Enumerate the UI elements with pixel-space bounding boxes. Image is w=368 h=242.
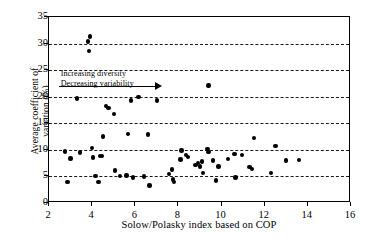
data-point [93,174,97,178]
gridline-y-10 [49,150,349,151]
x-tick-mark-4 [91,202,92,206]
x-tick-mark-16 [350,202,351,206]
data-point [269,171,273,175]
x-axis-title: Solow/Polasky index based on COP [48,219,350,230]
data-point [113,168,117,172]
x-tick-mark-14 [307,202,308,206]
data-point [216,164,220,168]
y-tick-mark-0 [44,202,48,203]
x-tick-mark-8 [177,202,178,206]
data-point [101,134,105,138]
data-point [87,49,91,53]
data-point [252,136,256,140]
data-point [240,153,244,157]
x-tick-mark-2 [48,202,49,206]
data-point [100,154,104,158]
data-point [129,98,133,102]
data-point [198,164,202,168]
data-point [86,39,90,43]
data-point [214,178,218,182]
arrow-shaft [59,86,157,87]
data-point [172,180,176,184]
data-point [63,149,67,153]
data-point [206,150,210,154]
y-tick-mark-20 [44,96,48,97]
data-point [147,183,151,187]
data-point [155,98,159,102]
data-point [68,156,72,160]
data-point [201,171,205,175]
data-point [126,132,130,136]
y-tick-mark-15 [44,122,48,123]
data-point [233,175,237,179]
plot-area: Increasing diversity Decreasing variabil… [48,16,350,202]
y-tick-mark-5 [44,175,48,176]
data-point [96,180,100,184]
data-point [88,34,92,38]
data-point [186,155,190,159]
scatter-chart-figure: Average coefficient of variation (%) 051… [0,0,368,242]
data-point [170,167,174,171]
data-point [273,144,277,148]
gridline-y-15 [49,123,349,124]
y-tick-mark-10 [44,149,48,150]
y-tick-mark-35 [44,16,48,17]
x-tick-mark-12 [264,202,265,206]
annotation-line-decreasing-variability: Decreasing variability [59,79,134,89]
data-point [167,172,171,176]
data-point [284,158,288,162]
data-point [232,152,236,156]
data-point [131,175,135,179]
data-point [200,159,204,163]
annotation-line-increasing-diversity: Increasing diversity [59,69,134,79]
data-point [297,158,301,162]
data-point [91,155,95,159]
data-point [65,180,69,184]
data-point [136,95,140,99]
y-tick-mark-30 [44,43,48,44]
data-point [178,157,182,161]
data-point [78,150,82,154]
data-point [206,83,210,87]
data-point [211,158,215,162]
data-point [75,96,79,100]
data-point [112,112,116,116]
data-point [146,132,150,136]
gridline-y-30 [49,44,349,45]
data-point [226,157,230,161]
data-point [179,148,183,152]
y-tick-mark-25 [44,69,48,70]
data-point [142,174,146,178]
arrow-head [155,82,162,90]
data-point [124,173,128,177]
gridline-y-20 [49,97,349,98]
x-tick-mark-10 [221,202,222,206]
data-point [106,106,110,110]
x-tick-mark-6 [134,202,135,206]
data-point [250,167,254,171]
data-point [118,174,122,178]
